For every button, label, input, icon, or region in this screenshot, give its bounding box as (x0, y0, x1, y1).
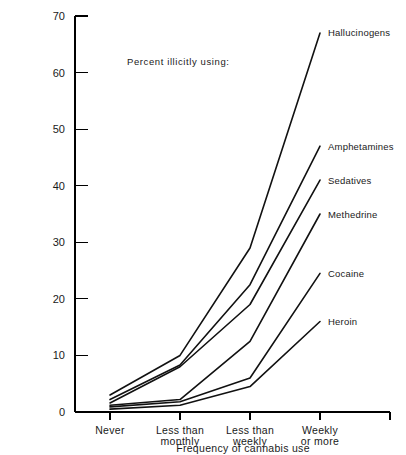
chart-svg: 010203040506070 NeverLess thanmonthlyLes… (0, 0, 406, 455)
series-labels: HallucinogensAmphetaminesSedativesMethed… (328, 27, 394, 327)
y-axis-tick-label: 10 (53, 349, 65, 361)
series-label-hallucinogens: Hallucinogens (328, 27, 390, 38)
y-axis-tick-label: 50 (53, 123, 65, 135)
y-axis-tick-label: 70 (53, 10, 65, 22)
series-label-sedatives: Sedatives (328, 175, 372, 186)
line-chart: 010203040506070 NeverLess thanmonthlyLes… (0, 0, 406, 455)
y-axis: 010203040506070 (53, 10, 88, 418)
x-axis-tick-label: Never (95, 424, 125, 436)
x-axis-title: Frequency of cannabis use (176, 442, 310, 454)
series-line-hallucinogens (110, 33, 320, 395)
series-label-methedrine: Methedrine (328, 209, 378, 220)
series-label-amphetamines: Amphetamines (328, 141, 394, 152)
y-axis-tick-label: 0 (59, 406, 65, 418)
y-axis-tick-label: 20 (53, 293, 65, 305)
series-label-heroin: Heroin (328, 316, 357, 327)
chart-annotation: Percent illicitly using: (127, 56, 230, 67)
series-label-cocaine: Cocaine (328, 268, 364, 279)
series-lines (110, 33, 320, 409)
y-axis-tick-label: 40 (53, 180, 65, 192)
y-axis-tick-label: 30 (53, 236, 65, 248)
y-axis-tick-label: 60 (53, 67, 65, 79)
